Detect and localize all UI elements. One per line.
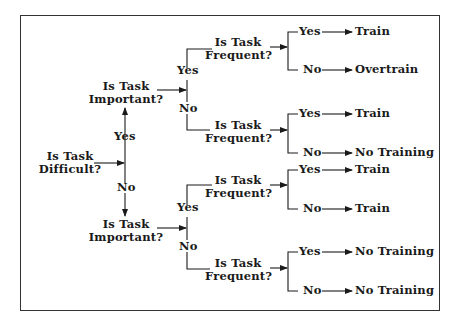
outcome-4-no: No Training [355,284,434,297]
outcome-4-yes: No Training [355,245,434,258]
frequent-3-yes-label: Yes [299,163,321,176]
root-question-node: Is Task Difficult? [38,150,102,176]
important-top-line2: Important? [86,93,166,106]
frequent-1-no-label: No [303,63,322,76]
frequent-node-3: Is Task Frequent? [205,174,271,200]
frequent-2-yes-label: Yes [299,107,321,120]
frequent-4-line2: Frequent? [205,270,271,283]
frequent-4-yes-label: Yes [299,245,321,258]
frequent-1-yes-label: Yes [299,25,321,38]
outcome-2-no: No Training [355,146,434,159]
important-top-node: Is Task Important? [86,80,166,106]
frequent-2-no-label: No [303,146,322,159]
frequent-node-4: Is Task Frequent? [205,257,271,283]
frequent-node-1: Is Task Frequent? [205,36,271,62]
root-question-line2: Difficult? [38,163,102,176]
frequent-3-line2: Frequent? [205,187,271,200]
frequent-1-line2: Frequent? [205,49,271,62]
important-top-yes-label: Yes [177,64,199,77]
outcome-3-no: Train [355,202,390,215]
outcome-1-no: Overtrain [355,63,418,76]
important-bottom-no-label: No [179,240,198,253]
important-bottom-node: Is Task Important? [86,218,166,244]
frequent-4-no-label: No [303,284,322,297]
outcome-1-yes: Train [355,25,390,38]
frequent-3-no-label: No [303,202,322,215]
important-bottom-line2: Important? [86,231,166,244]
frequent-2-line2: Frequent? [205,132,271,145]
important-top-no-label: No [179,102,198,115]
outcome-2-yes: Train [355,107,390,120]
important-bottom-yes-label: Yes [177,201,199,214]
root-yes-label: Yes [114,130,136,143]
frequent-node-2: Is Task Frequent? [205,119,271,145]
outcome-3-yes: Train [355,163,390,176]
root-no-label: No [117,181,136,194]
